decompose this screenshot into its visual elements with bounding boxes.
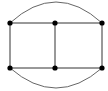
- node-top-right: [99, 20, 104, 25]
- edges-group: [10, 2, 102, 88]
- node-top-middle: [52, 20, 57, 25]
- node-bottom-middle: [52, 65, 57, 70]
- graph-diagram: [0, 0, 108, 91]
- node-bottom-right: [99, 65, 104, 70]
- node-top-left: [7, 20, 12, 25]
- bottom-arc-edge: [10, 68, 102, 88]
- node-bottom-left: [7, 65, 12, 70]
- top-arc-edge: [10, 2, 102, 23]
- nodes-group: [7, 20, 104, 70]
